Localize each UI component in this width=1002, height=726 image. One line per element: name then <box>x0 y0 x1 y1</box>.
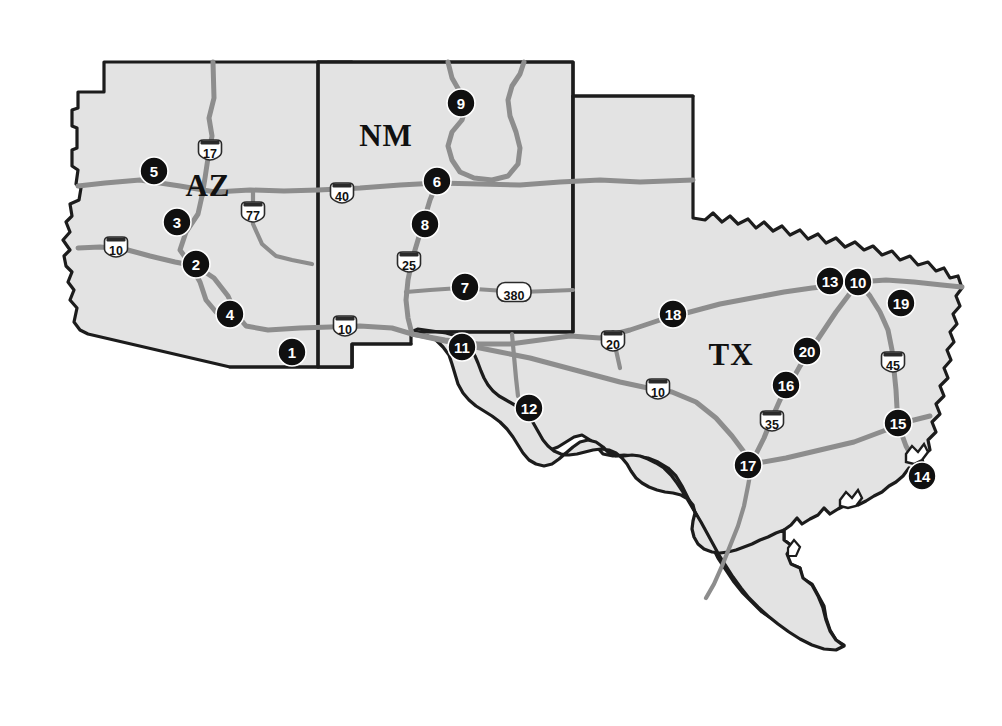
map-marker-5[interactable]: 5 <box>140 157 168 185</box>
map-root: AZ NM TX 17771040251020104535380 1234567… <box>0 0 1002 726</box>
map-marker-13[interactable]: 13 <box>816 267 844 295</box>
shield-number: 20 <box>606 338 620 352</box>
southwest-states-map: AZ NM TX 17771040251020104535380 1234567… <box>0 0 1002 726</box>
marker-number: 3 <box>173 214 181 231</box>
map-marker-20[interactable]: 20 <box>793 337 821 365</box>
interstate-shield-20: 20 <box>602 331 625 352</box>
shield-number: 10 <box>338 323 352 337</box>
marker-number: 12 <box>521 400 538 417</box>
state-label-nm: NM <box>359 118 413 153</box>
map-marker-19[interactable]: 19 <box>887 289 915 317</box>
map-marker-4[interactable]: 4 <box>216 300 244 328</box>
interstate-shield-77: 77 <box>242 202 265 223</box>
interstate-shield-45: 45 <box>882 352 905 373</box>
shield-top-band <box>107 238 126 242</box>
interstate-shield-40: 40 <box>331 183 354 204</box>
marker-number: 9 <box>457 95 465 112</box>
shield-top-band <box>649 380 668 384</box>
marker-number: 16 <box>778 377 795 394</box>
us-route-shield-380: 380 <box>497 283 531 303</box>
marker-number: 8 <box>421 216 429 233</box>
marker-number: 17 <box>740 457 757 474</box>
state-label-tx: TX <box>708 337 753 372</box>
shield-top-band <box>336 317 355 321</box>
marker-number: 5 <box>150 163 158 180</box>
map-marker-10[interactable]: 10 <box>844 268 872 296</box>
marker-number: 10 <box>850 274 867 291</box>
interstate-shield-10: 10 <box>334 316 357 337</box>
interstate-shield-10: 10 <box>105 237 128 258</box>
state-label-az: AZ <box>185 168 230 203</box>
interstate-shield-35: 35 <box>761 411 784 432</box>
map-marker-7[interactable]: 7 <box>451 273 479 301</box>
marker-number: 4 <box>226 306 235 323</box>
marker-number: 19 <box>893 295 910 312</box>
shield-top-band <box>201 141 220 145</box>
marker-number: 20 <box>799 343 816 360</box>
map-marker-9[interactable]: 9 <box>447 89 475 117</box>
interstate-shield-10: 10 <box>647 379 670 400</box>
marker-number: 7 <box>461 279 469 296</box>
shield-number: 40 <box>335 190 349 204</box>
map-marker-1[interactable]: 1 <box>278 338 306 366</box>
marker-number: 2 <box>192 256 200 273</box>
interstate-shield-17: 17 <box>199 140 222 161</box>
shield-top-band <box>333 184 352 188</box>
interstate-shield-25: 25 <box>398 252 421 273</box>
marker-number: 11 <box>454 339 470 356</box>
shield-top-band <box>244 203 263 207</box>
shield-number: 35 <box>765 418 779 432</box>
map-marker-3[interactable]: 3 <box>163 208 191 236</box>
shield-number: 45 <box>886 359 900 373</box>
arizona-state-shape <box>63 62 352 367</box>
shield-top-band <box>604 332 623 336</box>
shield-top-band <box>884 353 903 357</box>
marker-number: 15 <box>890 415 907 432</box>
map-marker-8[interactable]: 8 <box>411 210 439 238</box>
marker-number: 14 <box>914 468 931 485</box>
map-marker-16[interactable]: 16 <box>772 371 800 399</box>
marker-number: 1 <box>288 344 296 361</box>
marker-number: 13 <box>822 273 839 290</box>
shield-number: 77 <box>246 209 260 223</box>
marker-number: 6 <box>433 173 441 190</box>
map-marker-14[interactable]: 14 <box>908 462 936 490</box>
shield-top-band <box>400 253 419 257</box>
us-shield-number: 380 <box>504 289 525 303</box>
map-marker-2[interactable]: 2 <box>182 250 210 278</box>
map-marker-6[interactable]: 6 <box>423 167 451 195</box>
map-marker-15[interactable]: 15 <box>884 409 912 437</box>
shield-top-band <box>763 412 782 416</box>
marker-number: 18 <box>665 306 682 323</box>
shield-number: 17 <box>203 147 217 161</box>
map-marker-18[interactable]: 18 <box>659 300 687 328</box>
shield-number: 10 <box>109 244 123 258</box>
shield-number: 10 <box>651 386 665 400</box>
map-marker-12[interactable]: 12 <box>515 394 543 422</box>
map-marker-17[interactable]: 17 <box>734 451 762 479</box>
shield-number: 25 <box>402 259 416 273</box>
map-marker-11[interactable]: 11 <box>448 333 476 361</box>
